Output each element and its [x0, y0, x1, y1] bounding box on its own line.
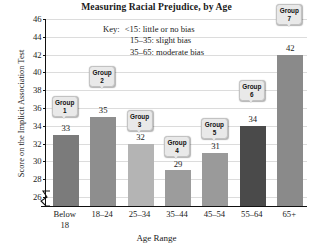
key-legend: Key:<15: little or no bias 15–35: slight… [103, 24, 204, 58]
bar: 32 [128, 144, 154, 206]
group-callout-name: Group [167, 139, 186, 146]
bar-value-label: 31 [211, 141, 220, 151]
x-tick-label: 45–54 [204, 209, 225, 220]
bar-value-label: 29 [174, 159, 183, 169]
bar-value-label: 34 [249, 114, 258, 124]
x-tick-label: 35–44 [166, 209, 187, 220]
group-callout-name: Group [280, 7, 299, 14]
key-range-2: 15–35: slight bias [130, 35, 191, 45]
group-callout: Group1 [52, 96, 78, 117]
x-tick-label-line: 18–24 [91, 209, 112, 220]
key-line-2: 15–35: slight bias [103, 35, 204, 46]
x-axis-line [41, 206, 307, 207]
group-callout-number: 3 [130, 121, 149, 129]
key-title: Key: [103, 24, 120, 34]
x-tick-label-line: 45–54 [204, 209, 225, 220]
key-range-3: 35–65: moderate bias [130, 47, 204, 57]
y-tick-label: 40 [33, 67, 42, 77]
group-callout: Group6 [239, 80, 265, 101]
group-callout: Group7 [276, 4, 302, 25]
x-tick-label: 65+ [283, 209, 296, 220]
x-tick-label: 18–24 [91, 209, 112, 220]
bar-value-label: 42 [286, 43, 295, 53]
y-axis-title: Score on the Implicit Association Test [17, 14, 26, 214]
bar-value-label: 35 [99, 105, 108, 115]
key-range-1: <15: little or no bias [125, 24, 195, 34]
x-tick-label-line: 25–34 [129, 209, 150, 220]
bar: 31 [202, 153, 228, 206]
y-tick-label: 36 [33, 103, 42, 113]
group-callout: Group3 [126, 110, 152, 131]
y-tick-label: 38 [33, 85, 42, 95]
y-tick-label: 46 [33, 14, 42, 24]
bar-value-label: 32 [136, 132, 145, 142]
group-callout: Group4 [164, 136, 190, 157]
bar: 33 [53, 135, 79, 206]
key-line-3: 35–65: moderate bias [103, 47, 204, 58]
group-callout-name: Group [55, 99, 74, 106]
chart-title: Measuring Racial Prejudice, by Age [0, 1, 313, 12]
axis-break-icon [38, 190, 52, 207]
group-callout-number: 6 [242, 91, 261, 99]
x-tick-label-line: 65+ [283, 209, 296, 220]
x-tick-label-line: 18 [53, 220, 75, 231]
bar: 34 [240, 126, 266, 206]
bar: 42 [277, 55, 303, 206]
y-tick-label: 44 [33, 32, 42, 42]
group-callout-number: 2 [93, 77, 112, 85]
x-axis-title: Age Range [0, 233, 313, 243]
bar: 35 [90, 117, 116, 206]
bar: 29 [165, 170, 191, 206]
x-tick-label: 25–34 [129, 209, 150, 220]
group-callout-number: 7 [280, 15, 299, 23]
group-callout: Group2 [89, 66, 115, 87]
x-tick-label-line: Below [53, 209, 75, 220]
y-tick-label: 30 [33, 156, 42, 166]
x-tick-label: Below18 [53, 209, 75, 230]
chart-container: Measuring Racial Prejudice, by Age Score… [0, 0, 313, 249]
y-tick-label: 32 [33, 139, 42, 149]
group-callout-name: Group [242, 83, 261, 90]
group-callout-number: 5 [205, 129, 224, 137]
x-tick-label: 55–64 [241, 209, 262, 220]
y-tick-label: 28 [33, 174, 42, 184]
group-callout-name: Group [205, 121, 224, 128]
bar-value-label: 33 [61, 123, 70, 133]
x-tick-label-line: 35–44 [166, 209, 187, 220]
group-callout: Group5 [201, 118, 227, 139]
group-callout-number: 1 [55, 107, 74, 115]
key-line-1: Key:<15: little or no bias [103, 24, 204, 35]
group-callout-name: Group [93, 69, 112, 76]
x-tick-label-line: 55–64 [241, 209, 262, 220]
group-callout-name: Group [130, 113, 149, 120]
y-tick-label: 42 [33, 50, 42, 60]
y-tick-label: 34 [33, 121, 42, 131]
group-callout-number: 4 [167, 147, 186, 155]
